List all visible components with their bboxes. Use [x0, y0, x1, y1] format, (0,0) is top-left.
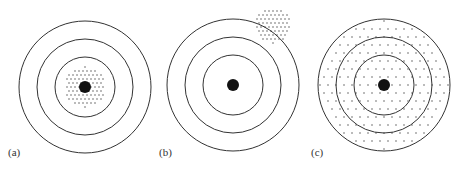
shot-dot — [78, 102, 79, 103]
shot-dot — [435, 108, 436, 109]
shot-dot — [439, 68, 440, 69]
shot-dot — [258, 22, 259, 23]
shot-dot — [262, 22, 263, 23]
shot-dot — [258, 30, 259, 31]
shot-dot — [86, 70, 87, 71]
shot-dot — [272, 18, 273, 19]
shot-dot — [286, 30, 287, 31]
shot-dot — [276, 10, 277, 11]
shot-dot — [343, 84, 344, 85]
shot-dot — [423, 52, 424, 53]
shot-dot — [355, 28, 356, 29]
shot-dot — [343, 100, 344, 101]
shot-dot — [68, 90, 69, 91]
shot-dot — [74, 102, 75, 103]
shot-dot — [260, 34, 261, 35]
shot-dot — [339, 76, 340, 77]
shot-dot — [407, 52, 408, 53]
shot-dot — [327, 100, 328, 101]
shot-dot — [415, 36, 416, 37]
shot-dot — [399, 132, 400, 133]
shot-dot — [102, 86, 103, 87]
shot-dot — [379, 44, 380, 45]
shot-dot — [403, 60, 404, 61]
shot-dot — [94, 70, 95, 71]
shot-dot — [76, 74, 77, 75]
shot-dot — [375, 116, 376, 117]
shot-dot — [351, 52, 352, 53]
shot-dot — [379, 92, 380, 93]
shot-dot — [407, 84, 408, 85]
shot-dot — [383, 116, 384, 117]
shot-dot — [98, 94, 99, 95]
shot-dot — [363, 140, 364, 141]
shot-dot — [383, 148, 384, 149]
panel-label-b: (b) — [159, 146, 172, 158]
shot-dot — [347, 124, 348, 125]
shot-dot — [415, 132, 416, 133]
shot-dot — [72, 90, 73, 91]
shot-dot — [280, 26, 281, 27]
shot-dot — [272, 10, 273, 11]
shot-dot — [90, 102, 91, 103]
shot-dot — [258, 14, 259, 15]
shot-dot — [435, 92, 436, 93]
shot-dot — [98, 78, 99, 79]
shot-dot — [278, 14, 279, 15]
shot-dot — [339, 108, 340, 109]
shot-dot — [363, 60, 364, 61]
shot-dot — [403, 76, 404, 77]
shot-dot — [415, 100, 416, 101]
shot-dot — [375, 68, 376, 69]
shot-dot — [84, 98, 85, 99]
shot-dot — [355, 108, 356, 109]
shot-dot — [100, 90, 101, 91]
shot-dot — [94, 78, 95, 79]
shot-dot — [74, 70, 75, 71]
shot-dot — [331, 60, 332, 61]
shot-dot — [431, 116, 432, 117]
shot-dot — [419, 44, 420, 45]
shot-dot — [323, 92, 324, 93]
shot-dot — [70, 94, 71, 95]
shot-dot — [327, 84, 328, 85]
shot-dot — [92, 98, 93, 99]
shot-dot — [331, 76, 332, 77]
shot-dot — [72, 98, 73, 99]
shot-dot — [447, 84, 448, 85]
shot-dot — [286, 14, 287, 15]
shot-dot — [431, 52, 432, 53]
shot-dot — [419, 60, 420, 61]
shot-dot — [371, 92, 372, 93]
shot-dot — [70, 86, 71, 87]
shot-dot — [367, 116, 368, 117]
shot-dot — [387, 92, 388, 93]
shot-dot — [399, 36, 400, 37]
shot-dot — [264, 10, 265, 11]
shot-dot — [96, 98, 97, 99]
shot-dot — [367, 84, 368, 85]
shot-dot — [84, 74, 85, 75]
shot-dot — [82, 102, 83, 103]
shot-dot — [96, 74, 97, 75]
shot-dot — [94, 86, 95, 87]
shot-dot — [411, 140, 412, 141]
target-b — [167, 10, 299, 151]
shot-dot — [268, 26, 269, 27]
shot-dot — [423, 84, 424, 85]
shot-dot — [78, 70, 79, 71]
shot-dot — [82, 78, 83, 79]
shot-dot — [423, 36, 424, 37]
shot-dot — [415, 116, 416, 117]
shot-dot — [379, 76, 380, 77]
shot-dot — [272, 42, 273, 43]
shot-dot — [82, 70, 83, 71]
shot-dot — [387, 76, 388, 77]
target-a — [19, 21, 151, 153]
shot-dot — [395, 124, 396, 125]
shot-dot — [88, 74, 89, 75]
bullseye — [378, 79, 390, 91]
shot-dot — [284, 18, 285, 19]
shot-dot — [347, 108, 348, 109]
shot-dot — [284, 34, 285, 35]
